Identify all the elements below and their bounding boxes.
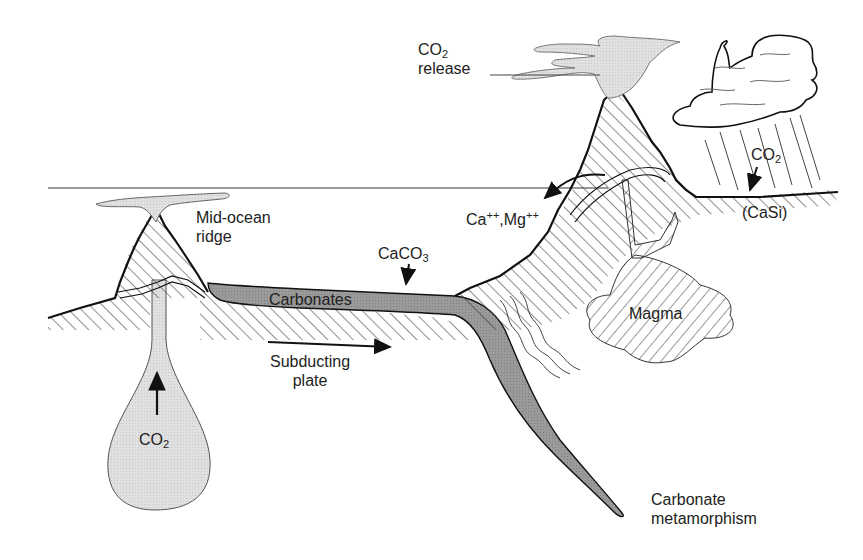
label-co2-mantle: CO2 bbox=[139, 430, 169, 449]
caco3-subscript: 3 bbox=[422, 252, 428, 264]
release-text: release bbox=[418, 60, 470, 77]
caco3-arrow bbox=[406, 264, 409, 284]
label-subducting-plate: Subducting plate bbox=[270, 352, 350, 390]
plate-text: plate bbox=[293, 372, 328, 389]
co2-text: CO bbox=[418, 41, 442, 58]
mid-ocean-ridge bbox=[48, 210, 208, 330]
mg-charge: ++ bbox=[526, 209, 539, 221]
ridge-text: ridge bbox=[196, 228, 232, 245]
weathering-arrow bbox=[750, 167, 757, 190]
ca-charge: ++ bbox=[486, 209, 499, 221]
co2-subscript: 2 bbox=[442, 48, 448, 60]
carbonate-text: Carbonate bbox=[651, 491, 726, 508]
mid-ocean-text: Mid-ocean bbox=[196, 209, 271, 226]
co2-subscript: 2 bbox=[775, 153, 781, 165]
caco-text: CaCO bbox=[378, 245, 422, 262]
ca-text: Ca bbox=[466, 211, 486, 228]
subducting-text: Subducting bbox=[270, 353, 350, 370]
label-ca-mg: Ca++,Mg++ bbox=[466, 210, 539, 229]
mg-text: ,Mg bbox=[499, 211, 526, 228]
co2-subscript: 2 bbox=[163, 438, 169, 450]
volcanic-co2-plume bbox=[512, 36, 680, 98]
metamorphism-text: metamorphism bbox=[651, 510, 757, 527]
label-magma: Magma bbox=[629, 304, 682, 323]
label-caco3: CaCO3 bbox=[378, 244, 429, 263]
label-carbonates: Carbonates bbox=[269, 290, 352, 309]
label-casi: (CaSi) bbox=[742, 203, 787, 222]
rain-cloud bbox=[673, 35, 817, 127]
label-mid-ocean-ridge: Mid-ocean ridge bbox=[196, 208, 271, 246]
label-co2-release: CO2 release bbox=[418, 40, 470, 78]
label-co2-weathering: CO2 bbox=[751, 145, 781, 164]
carbon-cycle-diagram bbox=[0, 0, 863, 560]
co2-text: CO bbox=[139, 431, 163, 448]
label-carbonate-metamorphism: Carbonate metamorphism bbox=[651, 490, 757, 528]
subduction-arrow bbox=[268, 342, 390, 347]
co2-text: CO bbox=[751, 146, 775, 163]
